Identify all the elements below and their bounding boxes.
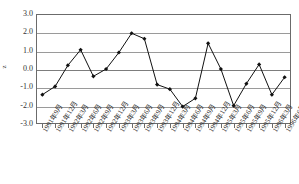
line-chart: z 3.02.01.00.0-1.0-2.0-3.01991年9月1991年12… <box>0 0 299 184</box>
data-point <box>142 37 146 41</box>
y-axis-tick-label: 3.0 <box>3 10 33 18</box>
y-axis-tick-label: -1.0 <box>3 83 33 91</box>
y-axis-tick-label: 1.0 <box>3 47 33 55</box>
y-axis-tick-label: 2.0 <box>3 28 33 36</box>
data-point <box>206 41 210 45</box>
data-point <box>219 67 223 71</box>
series-line <box>42 33 284 106</box>
y-axis-tick-label: 0.0 <box>3 65 33 73</box>
series-markers <box>40 31 286 109</box>
y-axis-tick-label: -2.0 <box>3 102 33 110</box>
data-point <box>155 82 159 86</box>
y-axis-tick-label: -3.0 <box>3 120 33 128</box>
data-point <box>91 74 95 78</box>
